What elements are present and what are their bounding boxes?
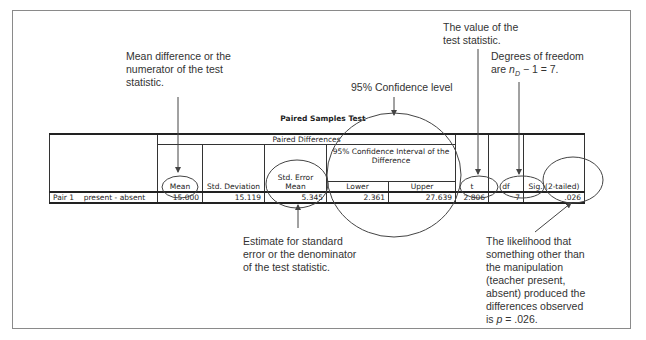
lower-cell: 2.361 — [327, 192, 389, 203]
t-header: t — [456, 134, 489, 192]
pair-label: Pair 1 — [53, 193, 74, 202]
mean-header: Mean — [158, 145, 203, 193]
table-title: Paired Samples Test — [0, 114, 646, 123]
sig-text-prefix: The likelihood that something other than… — [486, 235, 585, 325]
callout-test-statistic: The value of the test statistic. — [443, 21, 533, 47]
callout-mean: Mean difference or the numerator of the … — [126, 50, 256, 89]
mean-cell: 15.000 — [158, 192, 203, 203]
t-cell: 2.806 — [456, 192, 489, 203]
callout-degrees-of-freedom: Degrees of freedom are nD − 1 = 7. — [491, 50, 601, 80]
row-label-header — [50, 134, 158, 192]
std-deviation-header: Std. Deviation — [203, 145, 265, 193]
std-error-mean-cell: 5.345 — [265, 192, 327, 203]
std-deviation-cell: 15.119 — [203, 192, 265, 203]
sig-header: Sig. (2-tailed) — [524, 134, 585, 192]
upper-header: Upper — [389, 182, 456, 193]
sig-text-suffix: = .026. — [502, 313, 537, 325]
df-header: df — [489, 134, 524, 192]
upper-cell: 27.639 — [389, 192, 456, 203]
ci-header: 95% Confidence Interval of the Differenc… — [327, 145, 456, 182]
sig-cell: .026 — [524, 192, 585, 203]
paired-samples-table: Paired Differences t df Sig. (2-tailed) … — [49, 133, 585, 204]
pair-label-cell: Pair 1 present - absent — [50, 192, 158, 203]
df-cell: 7 — [489, 192, 524, 203]
callout-confidence-level: 95% Confidence level — [351, 81, 491, 94]
callout-standard-error: Estimate for standard error or the denom… — [243, 235, 363, 274]
pair-variables: present - absent — [84, 193, 146, 202]
std-error-mean-header: Std. Error Mean — [265, 145, 327, 193]
table-row: Pair 1 present - absent 15.000 15.119 5.… — [50, 192, 585, 203]
df-text-suffix: − 1 = 7. — [520, 63, 559, 75]
paired-differences-header: Paired Differences — [158, 134, 456, 145]
lower-header: Lower — [327, 182, 389, 193]
callout-significance: The likelihood that something other than… — [486, 235, 591, 326]
